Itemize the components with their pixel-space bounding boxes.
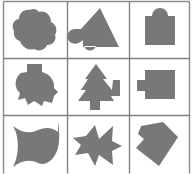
shape-grid-figure (0, 0, 194, 174)
shape-grid-canvas (0, 0, 194, 174)
